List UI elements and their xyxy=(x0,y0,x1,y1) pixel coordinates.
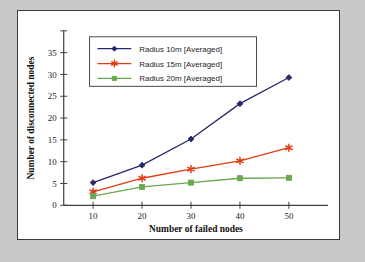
y-tick-label: 35 xyxy=(48,48,57,58)
data-point-marker xyxy=(112,76,116,80)
data-point-marker xyxy=(237,176,242,181)
y-tick-label: 10 xyxy=(48,157,57,167)
x-tick-label: 10 xyxy=(89,211,98,221)
y-tick-label: 15 xyxy=(48,135,57,145)
x-tick-label: 40 xyxy=(235,211,244,221)
data-point-marker xyxy=(139,162,145,168)
y-tick-label: 0 xyxy=(52,200,57,210)
y-tick-label: 30 xyxy=(48,70,57,80)
legend-label: Radius 10m [Averaged] xyxy=(139,45,222,54)
plot-area: 051015202530351020304050Number of failed… xyxy=(18,11,339,239)
data-point-marker xyxy=(90,180,96,186)
x-axis-title: Number of failed nodes xyxy=(149,224,243,234)
series-3 xyxy=(91,175,292,198)
data-point-marker xyxy=(139,184,144,189)
y-tick-label: 25 xyxy=(48,91,57,101)
line-chart: 051015202530351020304050Number of failed… xyxy=(18,11,339,239)
figure-panel: 051015202530351020304050Number of failed… xyxy=(17,10,340,240)
data-point-marker xyxy=(286,175,291,180)
legend-label: Radius 15m [Averaged] xyxy=(139,60,222,69)
x-tick-label: 30 xyxy=(187,211,196,221)
y-axis-title: Number of disconnected nodes xyxy=(26,56,36,179)
y-tick-label: 5 xyxy=(52,179,57,189)
data-point-marker xyxy=(188,180,193,185)
legend-label: Radius 20m [Averaged] xyxy=(139,74,222,83)
data-point-marker xyxy=(286,75,292,81)
y-tick-label: 20 xyxy=(48,113,57,123)
series-2 xyxy=(90,144,292,195)
x-tick-label: 50 xyxy=(284,211,293,221)
legend: Radius 10m [Averaged]Radius 15m [Average… xyxy=(90,37,257,87)
x-tick-label: 20 xyxy=(138,211,147,221)
data-point-marker xyxy=(91,194,96,199)
